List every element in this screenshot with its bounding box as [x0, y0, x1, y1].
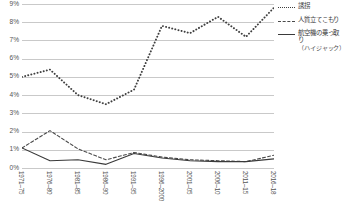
y-axis-tick-label: 5% [0, 73, 19, 80]
y-axis-tick-label: 9% [0, 1, 19, 8]
y-axis-tick-label: 8% [0, 19, 19, 26]
y-axis-labels: 9%8%7%6%5%4%3%2%1%0% [0, 0, 20, 172]
y-axis-tick-label: 2% [0, 128, 19, 135]
series-lines [22, 4, 274, 168]
y-axis-tick-label: 3% [0, 110, 19, 117]
legend-item-hijacking: 航空機の乗っ取り （ハイジャック） [278, 30, 344, 51]
legend-item-label: 航空機の乗っ取り [298, 30, 344, 44]
series-line [22, 131, 274, 162]
x-axis-tick-label: 2006–10 [214, 171, 221, 194]
y-axis-tick-label: 4% [0, 92, 19, 99]
x-axis-tick-label: 1986–90 [102, 171, 109, 194]
x-axis-tick-label: 2016–18 [270, 171, 277, 194]
legend-item-sublabel: （ハイジャック） [298, 44, 344, 51]
x-axis-tick-label: 2011–15 [242, 171, 249, 194]
dotted-line-icon [278, 7, 295, 10]
series-line [22, 148, 274, 164]
x-axis-tick-label: 1991–95 [130, 171, 137, 194]
legend-item-hostage-barricade: 人質立てこもり [278, 17, 344, 26]
chart-legend: 誘拐 人質立てこもり 航空機の乗っ取り （ハイジャック） [278, 3, 344, 55]
solid-line-icon [278, 34, 295, 37]
x-axis-tick-label: 1971–75 [18, 171, 25, 194]
legend-item-label: 人質立てこもり [298, 17, 344, 24]
chart-container: 9%8%7%6%5%4%3%2%1%0% 1971–751976–801981–… [0, 0, 344, 208]
x-axis-labels: 1971–751976–801981–851986–901991–951996–… [22, 168, 274, 208]
x-axis-tick-label: 1976–80 [46, 171, 53, 194]
series-line [22, 8, 274, 105]
y-axis-tick-label: 6% [0, 55, 19, 62]
legend-item-kidnapping: 誘拐 [278, 3, 344, 12]
legend-item-label: 誘拐 [298, 3, 344, 10]
y-axis-tick-label: 7% [0, 37, 19, 44]
dashed-line-icon [278, 21, 295, 24]
x-axis-tick-label: 1981–85 [74, 171, 81, 194]
x-axis-tick-label: 1996–2000 [158, 171, 165, 201]
y-axis-tick-label: 1% [0, 146, 19, 153]
y-axis-tick-label: 0% [0, 165, 19, 172]
x-axis-tick-label: 2001–05 [186, 171, 193, 194]
